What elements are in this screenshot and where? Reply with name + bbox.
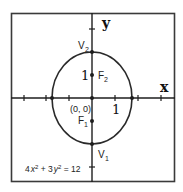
origin-label: (0, 0)	[70, 104, 91, 114]
x-unit-label: 1	[112, 102, 120, 117]
focus-f1-point	[90, 119, 94, 123]
x-axis-label: x	[160, 79, 169, 95]
svg-text:2: 2	[104, 76, 108, 83]
svg-text:V: V	[98, 149, 105, 160]
vertex-v1-label: V 1	[98, 149, 109, 162]
y-axis-label: y	[101, 15, 111, 31]
focus-f2-point	[90, 73, 94, 77]
vertex-v2-point	[90, 50, 94, 54]
vertex-v1-point	[90, 142, 94, 146]
equation-label: 4x2 + 3y2 = 12	[25, 164, 81, 174]
svg-text:2: 2	[85, 46, 89, 53]
origin-point	[90, 96, 94, 100]
x-intercept-right-point	[130, 96, 134, 100]
x-intercept-left-point	[50, 96, 54, 100]
svg-text:1: 1	[84, 121, 88, 128]
vertex-v2-label: V 2	[78, 40, 89, 53]
svg-text:1: 1	[105, 155, 109, 162]
y-unit-label: 1	[81, 68, 89, 83]
ellipse-diagram: y x 1 1 (0, 0) V 2 F 2 F 1 V 1 4x2 + 3y2…	[0, 0, 183, 192]
svg-text:V: V	[78, 40, 85, 51]
focus-f1-label: F 1	[78, 115, 88, 128]
focus-f2-label: F 2	[98, 70, 108, 83]
